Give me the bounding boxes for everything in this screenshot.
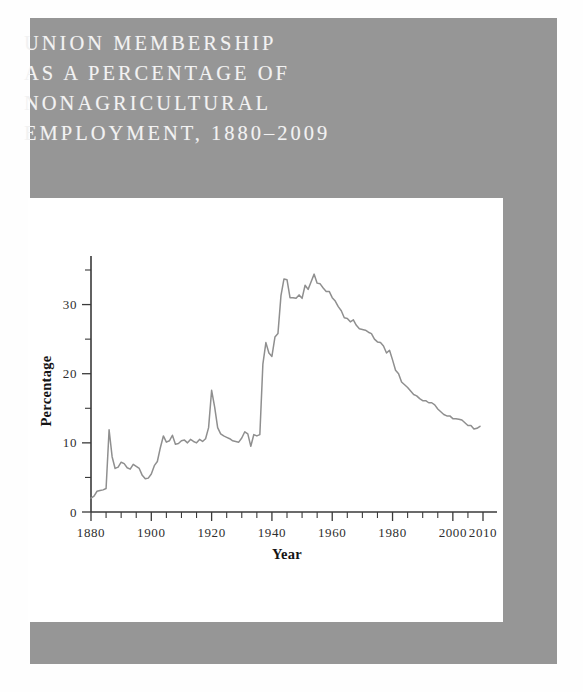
x-axis-title: Year <box>272 546 302 562</box>
y-tick-label-20: 20 <box>63 366 77 381</box>
poster-page: UNION MEMBERSHIP AS A PERCENTAGE OF NONA… <box>0 0 583 692</box>
title-line-3: NONAGRICULTURAL <box>24 88 494 118</box>
title-line-1: UNION MEMBERSHIP <box>24 28 494 58</box>
poster-title: UNION MEMBERSHIP AS A PERCENTAGE OF NONA… <box>24 28 494 148</box>
x-tick-label-1940: 1940 <box>258 525 286 540</box>
title-line-4: EMPLOYMENT, 1880–2009 <box>24 118 494 148</box>
x-tick-label-2000: 2000 <box>439 525 467 540</box>
title-line-2: AS A PERCENTAGE OF <box>24 58 494 88</box>
x-tick-label-1900: 1900 <box>137 525 165 540</box>
x-tick-label-2010: 2010 <box>469 525 497 540</box>
line-chart: 010203018801900192019401960198020002010Y… <box>28 198 503 622</box>
y-axis-title: Percentage <box>38 355 54 426</box>
y-tick-label-0: 0 <box>70 505 77 520</box>
x-tick-label-1960: 1960 <box>318 525 346 540</box>
chart-card: 010203018801900192019401960198020002010Y… <box>28 198 503 622</box>
x-tick-label-1880: 1880 <box>77 525 105 540</box>
x-tick-label-1980: 1980 <box>378 525 406 540</box>
y-tick-label-10: 10 <box>63 435 77 450</box>
series-line-0 <box>91 274 480 498</box>
y-tick-label-30: 30 <box>63 297 77 312</box>
x-tick-label-1920: 1920 <box>197 525 225 540</box>
